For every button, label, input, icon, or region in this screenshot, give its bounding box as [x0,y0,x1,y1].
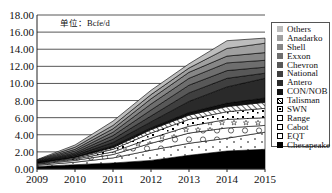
legend-label: Chesapeake [287,141,330,150]
legend-swatch-icon [277,106,283,112]
x-tick-label: 2010 [64,173,87,185]
y-tick-label: 8.00 [15,95,35,107]
y-tick-label: 12.00 [9,60,34,72]
legend-swatch-icon [277,98,283,104]
y-tick-label: 2.00 [15,146,35,158]
y-tick-label: 10.00 [9,77,34,89]
x-tick-label: 2011 [102,173,124,185]
legend-swatch-icon [277,53,283,59]
y-tick-label: 16.00 [9,26,34,38]
unit-label: 单位：Bcfe/d [60,18,110,28]
y-tick-label: 6.00 [15,112,35,124]
legend-swatch-icon [277,35,283,41]
legend-swatch-icon [277,142,283,148]
area-layers [37,38,265,169]
legend-swatch-icon [277,115,283,121]
legend: OthersAnadarkoShellExxonChevronNationalA… [271,22,330,147]
y-tick-label: 4.00 [15,129,35,141]
legend-swatch-icon [277,62,283,68]
legend-swatch-icon [277,133,283,139]
x-tick-label: 2013 [178,173,201,185]
y-tick-label: 18.00 [9,9,34,21]
x-tick-label: 2012 [140,173,162,185]
y-tick-label: 14.00 [9,43,34,55]
legend-item: Chesapeake [277,141,329,150]
x-tick-label: 2015 [254,173,277,185]
x-tick-label: 2014 [216,173,239,185]
legend-swatch-icon [277,44,283,50]
legend-swatch-icon [277,89,283,95]
legend-swatch-icon [277,71,283,77]
legend-swatch-icon [277,26,283,32]
legend-swatch-icon [277,80,283,86]
legend-swatch-icon [277,124,283,130]
x-tick-label: 2009 [26,173,49,185]
